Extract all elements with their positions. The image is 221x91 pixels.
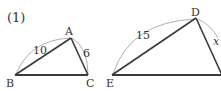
vertex-c-label: C <box>86 77 94 90</box>
vertex-d-label: D <box>191 6 200 19</box>
problem-number: (1) <box>7 10 25 25</box>
diagram-canvas: (1) A B C 10 6 D E 15 x <box>0 0 221 91</box>
side-df-length: x <box>213 35 220 48</box>
side-ac-length: 6 <box>83 47 90 60</box>
vertex-a-label: A <box>64 25 74 38</box>
vertex-e-label: E <box>106 77 114 90</box>
side-ab-length: 10 <box>33 44 47 57</box>
side-ed <box>112 18 196 75</box>
triangle-abc: A B C 10 6 <box>6 25 94 90</box>
similar-triangles-diagram: (1) A B C 10 6 D E 15 x <box>0 0 221 91</box>
vertex-b-label: B <box>6 77 14 90</box>
side-ed-length: 15 <box>136 29 150 42</box>
triangle-def: D E 15 x <box>106 6 221 90</box>
